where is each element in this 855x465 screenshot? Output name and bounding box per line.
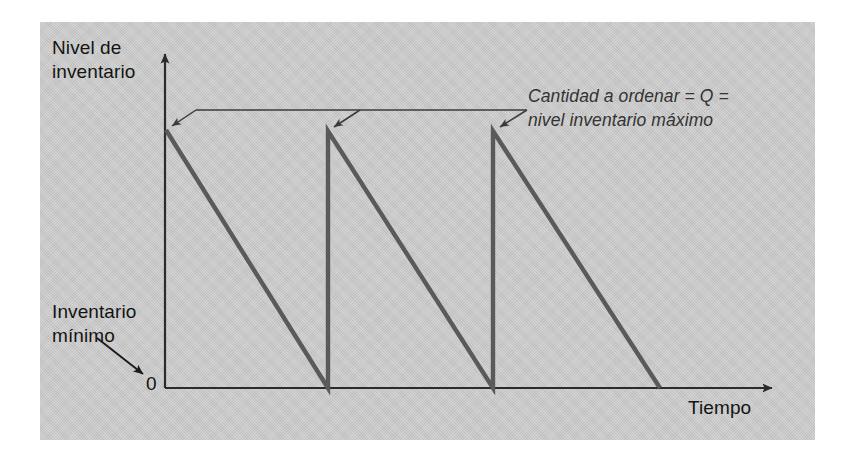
callout-arrow-peak-2 — [334, 110, 360, 127]
x-axis-title: Tiempo — [688, 396, 751, 420]
callout-arrow-peak-3 — [500, 110, 527, 127]
minimum-inventory-label: Inventario mínimo — [52, 300, 136, 349]
callout-arrow-peak-1 — [172, 110, 196, 126]
zero-tick-label: 0 — [146, 372, 157, 396]
order-quantity-callout: Cantidad a ordenar = Q = nivel inventari… — [528, 84, 798, 132]
inventory-model-figure: Nivel de inventario Inventario mínimo 0 … — [0, 0, 855, 465]
y-axis-title: Nivel de inventario — [52, 36, 135, 85]
inventory-level-sawtooth — [166, 130, 660, 388]
